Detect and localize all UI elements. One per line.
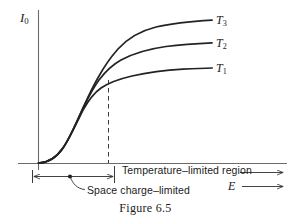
y-axis-label: I0 [20,11,29,26]
y-axis-label-subscript: 0 [24,16,28,26]
space-charge-limited-label: Space charge–limited [87,185,190,196]
curve-label-t1-subscript: 1 [223,67,227,76]
curve-label-t3-subscript: 3 [223,19,227,28]
curve-label-t3: T3 [216,14,227,28]
curve-label-t3-main: T [216,13,223,27]
space-charge-leader-dot [68,174,72,178]
curve-label-t2-subscript: 2 [223,42,227,51]
curve-label-t2-main: T [216,36,223,50]
figure-caption: Figure 6.5 [0,202,291,214]
curve-label-t1-main: T [216,61,223,75]
figure-container: I0 T3 T2 T1 Temperature–limited region S… [0,0,291,221]
curve-t1 [39,68,213,163]
space-charge-leader-line [71,178,86,190]
temperature-limited-region-label: Temperature–limited region [122,165,252,176]
x-axis-label: E [228,180,235,192]
curve-t3 [39,20,213,163]
curve-label-t1: T1 [216,62,227,76]
curve-label-t2: T2 [216,37,227,51]
